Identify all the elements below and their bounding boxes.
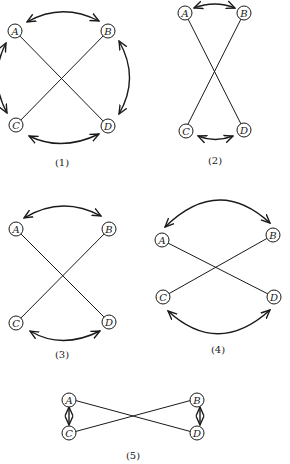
arc-c-d [198, 136, 233, 140]
svg-text:A: A [180, 8, 188, 19]
svg-text:C: C [182, 126, 190, 137]
svg-text:A: A [10, 26, 18, 37]
svg-text:B: B [103, 26, 111, 37]
node-d: D [190, 426, 204, 440]
node-d: D [267, 290, 281, 304]
caption-3: (3) [55, 349, 69, 360]
node-a: A [8, 24, 22, 38]
caption-5: (5) [126, 450, 140, 461]
node-c: C [9, 118, 23, 132]
node-d: D [237, 123, 251, 137]
caption-1: (1) [55, 157, 69, 168]
svg-text:B: B [104, 224, 112, 235]
node-b: B [190, 393, 204, 407]
figure-2: A B C D (2) [178, 4, 251, 166]
node-b: B [102, 222, 116, 236]
node-b: B [101, 24, 115, 38]
arc-c-d [30, 331, 100, 341]
caption-4: (4) [211, 344, 225, 355]
node-a: A [62, 393, 76, 407]
arc-a-b [24, 206, 101, 218]
node-b: B [266, 228, 280, 242]
figure-4: A B C D (4) [155, 200, 281, 355]
arc-c-a [0, 43, 7, 113]
arc-b-d [119, 41, 130, 114]
node-c: C [156, 290, 170, 304]
arc-d-c [29, 134, 99, 144]
node-d: D [101, 119, 115, 133]
figure-5: A B C D (5) [62, 393, 204, 461]
node-b: B [237, 6, 251, 20]
svg-text:B: B [192, 395, 200, 406]
svg-text:C: C [65, 428, 73, 439]
svg-text:C: C [12, 120, 20, 131]
svg-text:D: D [103, 121, 112, 132]
node-c: C [62, 426, 76, 440]
node-c: C [9, 316, 23, 330]
node-a: A [9, 222, 23, 236]
svg-text:D: D [239, 125, 248, 136]
arc-a-b [165, 200, 270, 227]
arc-a-b [194, 4, 235, 8]
svg-text:B: B [239, 8, 247, 19]
svg-text:D: D [269, 292, 278, 303]
node-c: C [179, 124, 193, 138]
svg-text:A: A [157, 235, 165, 246]
caption-2: (2) [208, 155, 222, 166]
edge-b-c [16, 31, 108, 125]
svg-text:D: D [104, 317, 113, 328]
figure-canvas: A B C D (1) A B C D (2) A B C D (3) A B … [0, 0, 290, 464]
node-d: D [102, 315, 116, 329]
svg-text:A: A [64, 395, 72, 406]
svg-text:B: B [268, 230, 276, 241]
node-a: A [178, 6, 192, 20]
svg-text:C: C [12, 318, 20, 329]
svg-text:D: D [192, 428, 201, 439]
arc-a-b [27, 12, 99, 22]
svg-text:A: A [11, 224, 19, 235]
svg-text:C: C [159, 292, 167, 303]
arc-c-d [168, 310, 270, 334]
figure-3: A B C D (3) [9, 206, 116, 360]
figure-1: A B C D (1) [0, 12, 130, 168]
node-a: A [155, 233, 169, 247]
